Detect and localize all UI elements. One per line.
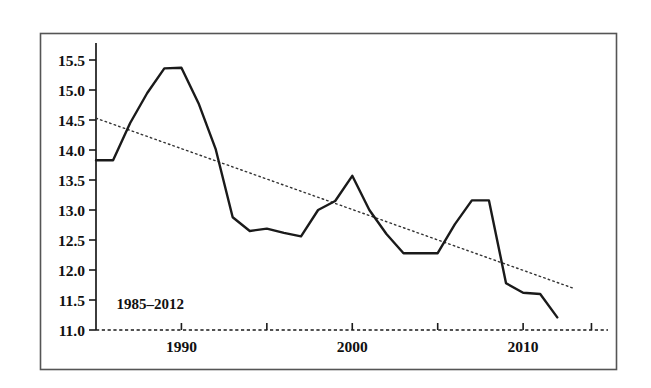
y-tick-label: 11.5: [59, 292, 86, 309]
y-tick-label: 15.5: [58, 52, 85, 69]
y-tick-label: 12.5: [58, 232, 85, 249]
y-tick-label: 13.5: [58, 172, 85, 189]
y-tick-label: 13.0: [58, 202, 85, 219]
y-tick-label: 12.0: [58, 262, 85, 279]
y-tick-label: 15.0: [58, 82, 85, 99]
x-tick-label: 2000: [337, 338, 368, 355]
y-tick-label: 14.5: [58, 112, 85, 129]
y-tick-label: 11.0: [59, 322, 86, 339]
chart-canvas: 11.011.512.012.513.013.514.014.515.015.5…: [0, 0, 651, 388]
x-tick-label: 2010: [508, 338, 539, 355]
y-tick-label: 14.0: [58, 142, 85, 159]
x-tick-label: 1990: [166, 338, 197, 355]
figure-container: 11.011.512.012.513.013.514.014.515.015.5…: [0, 0, 651, 388]
range-annotation-label: 1985–2012: [117, 296, 185, 312]
